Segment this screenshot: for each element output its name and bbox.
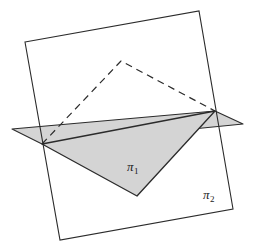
plane-label-pi2: π2 [203, 188, 214, 201]
pi2-glyph: π [203, 187, 210, 202]
pi1-subscript: 1 [134, 166, 139, 176]
pi2-subscript: 2 [210, 194, 215, 204]
geometry-svg [0, 0, 257, 250]
figure-canvas: π1 π2 [0, 0, 257, 250]
plane-label-pi1: π1 [127, 160, 138, 173]
pi1-glyph: π [127, 159, 134, 174]
